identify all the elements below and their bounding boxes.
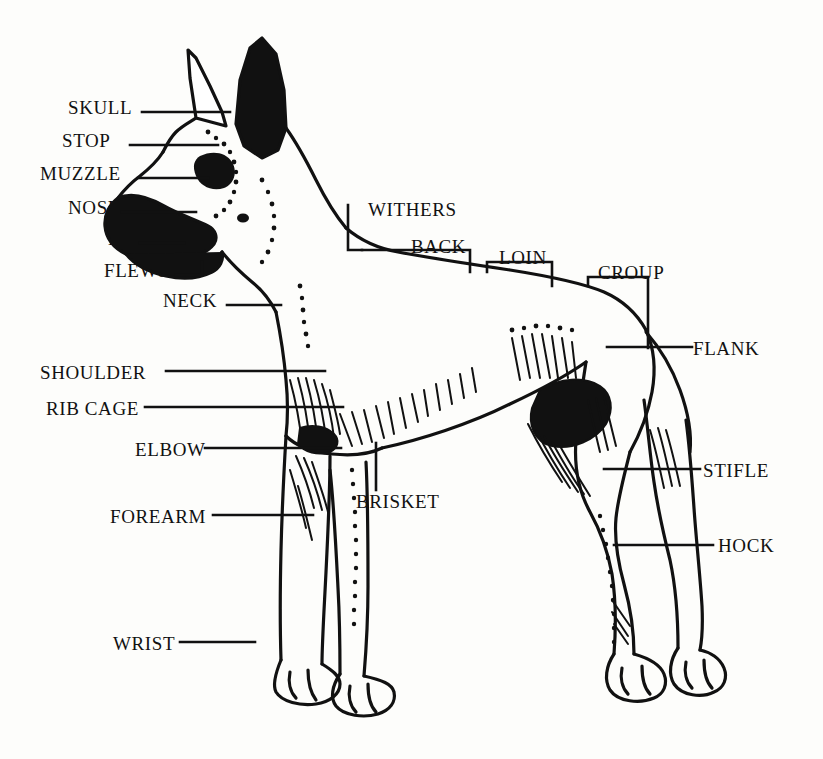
label-hock: HOCK	[718, 536, 774, 555]
label-shoulder: SHOULDER	[40, 363, 146, 382]
label-muzzle: MUZZLE	[40, 164, 121, 183]
label-stop: STOP	[62, 131, 111, 150]
label-nose: NOSE	[68, 198, 120, 217]
rear-leg-far-back	[686, 420, 702, 650]
label-neck: NECK	[163, 291, 217, 310]
label-croup: CROUP	[598, 263, 664, 282]
near-ear	[236, 38, 286, 158]
label-flank: FLANK	[693, 339, 759, 358]
front-leg-near-front	[280, 436, 286, 660]
label-back: BACK	[411, 237, 466, 256]
front-leg-far-front	[330, 470, 340, 674]
label-stifle: STIFLE	[703, 461, 769, 480]
label-lip: LIP	[108, 229, 138, 248]
label-loin: LOIN	[499, 248, 547, 267]
neck-crest	[286, 128, 346, 228]
label-elbow: ELBOW	[135, 440, 206, 459]
front-paw-far-toe1	[349, 686, 356, 712]
rear-paw-far-toe1	[685, 662, 692, 688]
leader-lines	[122, 112, 713, 642]
label-rib-cage: RIB CAGE	[46, 399, 139, 418]
rear-leg-near-back	[615, 452, 634, 654]
forehead-patch	[194, 153, 235, 190]
skull-top	[163, 118, 196, 152]
front-paw-near-toe2	[308, 670, 316, 700]
dog-body-outline	[105, 38, 726, 716]
front-paw-far-toe2	[368, 684, 376, 712]
front-leg-near-back	[322, 456, 330, 664]
label-withers: WITHERS	[368, 200, 457, 219]
front-paw-far	[333, 674, 395, 716]
front-paw-near	[274, 660, 340, 705]
front-paw-near-toe1	[289, 672, 296, 698]
lower-shoulder-hatch	[290, 456, 328, 540]
rear-paw-near-toe1	[621, 668, 628, 694]
label-forearm: FOREARM	[110, 507, 206, 526]
label-flews: FLEWS	[104, 261, 169, 280]
label-brisket: BRISKET	[356, 492, 439, 511]
rear-paw-near-toe2	[642, 666, 650, 694]
rear-paw-far	[671, 648, 726, 695]
label-wrist: WRIST	[113, 634, 175, 653]
neck-front	[276, 312, 288, 436]
elbow-mass	[298, 426, 337, 454]
anatomy-figure: SKULLSTOPMUZZLENOSELIPFLEWSNECKWITHERSBA…	[0, 0, 823, 759]
flank-hatch	[512, 334, 576, 380]
far-ear	[188, 50, 226, 126]
label-skull: SKULL	[68, 98, 132, 117]
jaw-throat	[222, 252, 276, 312]
leader-withers	[348, 205, 362, 250]
eye	[237, 214, 249, 223]
muzzle-bridge	[118, 152, 163, 198]
brisket-hatch	[340, 368, 476, 446]
rear-paw-near	[607, 654, 666, 701]
rear-paw-far-toe2	[704, 660, 712, 688]
